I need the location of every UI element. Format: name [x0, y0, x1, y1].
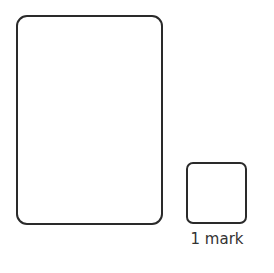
mark-label: 1 mark: [186, 230, 248, 248]
working-area-box[interactable]: [16, 15, 163, 225]
answer-box[interactable]: [186, 162, 247, 224]
